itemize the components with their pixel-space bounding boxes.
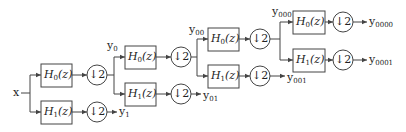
downsample-label: ↓2 — [89, 69, 105, 80]
downsample-label: ↓2 — [173, 51, 189, 62]
signal-label-y0: y0 — [107, 40, 118, 53]
signal-label-y00: y00 — [189, 24, 204, 37]
output-label-y0000: y0000 — [369, 16, 393, 29]
downsample-label: ↓2 — [89, 106, 105, 117]
downsample-label: ↓2 — [335, 16, 351, 27]
h0-label: H0(z) — [296, 16, 324, 29]
h0-label: H0(z) — [44, 69, 72, 82]
h1-label: H1(z) — [211, 70, 239, 83]
output-label-y001: y001 — [287, 72, 307, 85]
h0-label: H0(z) — [128, 51, 156, 64]
h1-label: H1(z) — [128, 88, 156, 101]
input-label: x — [13, 87, 19, 98]
downsample-label: ↓2 — [252, 33, 268, 44]
downsample-label: ↓2 — [252, 70, 268, 81]
h1-label: H1(z) — [44, 106, 72, 119]
signal-label-y000: y000 — [272, 6, 292, 19]
output-label-y1: y1 — [119, 106, 130, 119]
downsample-label: ↓2 — [335, 54, 351, 65]
output-label-y0001: y0001 — [369, 54, 393, 67]
h1-label: H1(z) — [296, 54, 324, 67]
output-label-y01: y01 — [203, 90, 218, 103]
downsample-label: ↓2 — [173, 88, 189, 99]
h0-label: H0(z) — [211, 33, 239, 46]
